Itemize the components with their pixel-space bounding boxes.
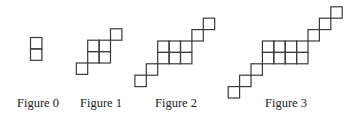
unit-square [297, 52, 308, 63]
unit-square [319, 18, 330, 29]
figure-0-squares [31, 38, 42, 61]
unit-square [262, 41, 273, 52]
unit-square [88, 52, 99, 63]
figure-3-label: Figure 3 [265, 97, 307, 110]
unit-square [99, 52, 110, 63]
figure-2-squares [135, 18, 215, 86]
figure-1-label: Figure 1 [80, 97, 122, 110]
unit-square [203, 18, 214, 29]
unit-square [331, 7, 342, 18]
unit-square [308, 30, 319, 41]
unit-square [274, 41, 285, 52]
unit-square [146, 64, 157, 75]
figure-0-label: Figure 0 [17, 97, 59, 110]
unit-square [31, 49, 42, 60]
unit-square [192, 30, 203, 41]
unit-square [111, 29, 122, 40]
unit-square [285, 41, 296, 52]
unit-square [88, 40, 99, 51]
unit-square [135, 75, 146, 86]
unit-square [262, 52, 273, 63]
unit-square [285, 52, 296, 63]
unit-square [76, 63, 87, 74]
unit-square [240, 75, 251, 86]
unit-square [251, 64, 262, 75]
figure-1-squares [76, 29, 122, 75]
unit-square [99, 40, 110, 51]
unit-square [274, 52, 285, 63]
unit-square [158, 52, 169, 63]
unit-square [158, 41, 169, 52]
unit-square [169, 41, 180, 52]
figure-2-label: Figure 2 [155, 97, 197, 110]
unit-square [181, 52, 192, 63]
figure-3-squares [228, 7, 342, 98]
unit-square [297, 41, 308, 52]
unit-square [181, 41, 192, 52]
unit-square [228, 87, 239, 98]
unit-square [169, 52, 180, 63]
unit-square [31, 38, 42, 49]
